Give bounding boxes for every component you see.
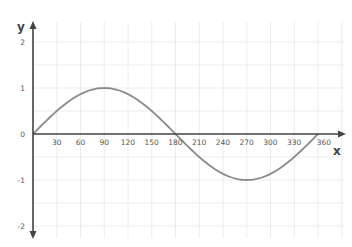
x-tick-label: 360 — [317, 138, 332, 147]
y-tick-label: -1 — [18, 176, 26, 185]
x-tick-labels: 306090120150180210240270300330360 — [52, 138, 331, 147]
y-tick-label: 0 — [20, 130, 25, 139]
x-tick-label: 90 — [99, 138, 109, 147]
x-axis-label: x — [333, 144, 341, 158]
y-tick-labels: 210-1-2 — [18, 38, 26, 231]
y-tick-label: 1 — [20, 84, 25, 93]
x-tick-label: 60 — [76, 138, 86, 147]
y-tick-label: 2 — [20, 38, 25, 47]
y-tick-label: -2 — [18, 222, 26, 231]
x-tick-label: 150 — [145, 138, 160, 147]
x-tick-label: 240 — [216, 138, 231, 147]
x-tick-label: 270 — [240, 138, 255, 147]
x-tick-label: 300 — [263, 138, 278, 147]
y-axis-arrow-down-icon — [30, 231, 37, 239]
x-tick-label: 330 — [287, 138, 302, 147]
x-tick-label: 180 — [168, 138, 183, 147]
y-axis-arrow-up-icon — [30, 21, 37, 29]
x-tick-label: 120 — [121, 138, 136, 147]
y-axis-label: y — [17, 20, 25, 34]
sine-chart: 306090120150180210240270300330360 210-1-… — [0, 0, 352, 247]
x-tick-label: 30 — [52, 138, 62, 147]
x-tick-label: 210 — [192, 138, 207, 147]
grid — [33, 22, 345, 238]
